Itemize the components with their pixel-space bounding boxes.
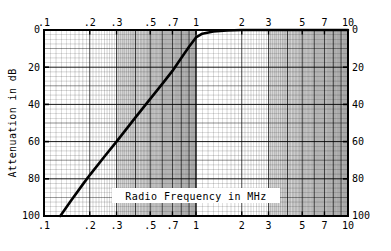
y-tick-label-left-5: 100 [22,210,40,221]
y-tick-label-left-0: 0 [34,24,40,35]
x-tick-label-bottom-6: 2 [239,220,245,231]
x-tick-label-bottom-4: .7 [166,220,178,231]
y-tick-label-right-4: 80 [352,173,364,184]
y-tick-label-left-1: 20 [28,62,40,73]
x-tick-label-top-6: 2 [239,17,245,28]
x-tick-label-top-2: .3 [110,17,122,28]
x-tick-label-top-3: .5 [144,17,156,28]
x-tick-label-bottom-9: 7 [321,220,327,231]
x-tick-label-bottom-7: 3 [266,220,272,231]
x-tick-label-top-8: 5 [299,17,305,28]
y-axis-title: Attenuation in dB [7,68,18,177]
x-tick-label-top-4: .7 [166,17,178,28]
x-tick-label-bottom-8: 5 [299,220,305,231]
y-tick-label-right-2: 40 [352,99,364,110]
x-tick-label-top-7: 3 [266,17,272,28]
chart-canvas: .1.1.2.2.3.3.5.5.7.711223355771010002020… [0,0,391,251]
x-tick-label-top-5: 1 [193,17,199,28]
x-tick-label-bottom-0: .1 [38,220,50,231]
x-axis-title: Radio Frequency in MHz [125,191,266,202]
attenuation-chart: .1.1.2.2.3.3.5.5.7.711223355771010002020… [0,0,391,251]
y-tick-label-left-2: 40 [28,99,40,110]
x-tick-label-bottom-5: 1 [193,220,199,231]
x-tick-label-bottom-3: .5 [144,220,156,231]
y-tick-label-left-3: 60 [28,136,40,147]
y-tick-label-right-3: 60 [352,136,364,147]
y-tick-label-right-5: 100 [352,210,370,221]
x-tick-label-top-9: 7 [321,17,327,28]
x-tick-label-top-1: .2 [84,17,96,28]
y-tick-label-right-1: 20 [352,62,364,73]
x-tick-label-bottom-1: .2 [84,220,96,231]
y-tick-label-left-4: 80 [28,173,40,184]
y-tick-label-right-0: 0 [352,24,358,35]
x-tick-label-bottom-2: .3 [110,220,122,231]
x-tick-label-bottom-10: 10 [342,220,354,231]
